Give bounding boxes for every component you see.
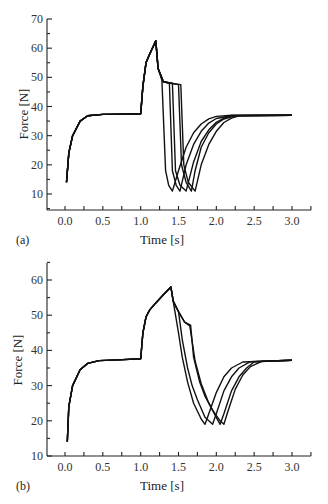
- x-ticks: 0.00.51.01.52.02.53.0: [58, 452, 311, 474]
- x-tick-label: 2.5: [247, 214, 262, 228]
- x-ticks: 0.00.51.01.52.02.53.0: [58, 206, 311, 228]
- y-ticks: 10203040506070: [31, 12, 52, 209]
- panel-label-b: (b): [16, 479, 30, 493]
- x-tick-label: 1.5: [171, 460, 186, 474]
- force-curve: [67, 287, 292, 442]
- y-tick-label: 20: [31, 158, 43, 172]
- x-tick-label: 3.0: [285, 460, 300, 474]
- x-tick-label: 0.0: [58, 214, 73, 228]
- y-tick-label: 50: [31, 70, 43, 84]
- panel-label-a: (a): [16, 233, 29, 247]
- y-tick-label: 20: [31, 414, 43, 428]
- chart-panel-b: 102030405060 0.00.51.01.52.02.53.0 Force…: [10, 262, 311, 493]
- x-tick-label: 0.5: [95, 214, 110, 228]
- y-ticks: 102030405060: [31, 262, 52, 463]
- x-tick-label: 2.5: [247, 460, 262, 474]
- x-tick-label: 1.5: [171, 214, 186, 228]
- x-tick-label: 1.0: [133, 460, 148, 474]
- y-tick-label: 70: [31, 12, 43, 26]
- y-tick-label: 10: [31, 449, 43, 463]
- y-tick-label: 60: [31, 273, 43, 287]
- force-curve: [67, 287, 292, 442]
- x-tick-label: 3.0: [285, 214, 300, 228]
- y-tick-label: 60: [31, 41, 43, 55]
- y-tick-label: 30: [31, 129, 43, 143]
- figure: 10203040506070 0.00.51.01.52.02.53.0 For…: [0, 0, 328, 504]
- y-tick-label: 40: [31, 100, 43, 114]
- data-curves: [67, 41, 293, 191]
- x-axis-title: Time [s]: [140, 232, 184, 247]
- x-axis-title: Time [s]: [140, 478, 184, 493]
- y-tick-label: 30: [31, 379, 43, 393]
- y-axis-title: Force [N]: [10, 335, 25, 386]
- x-tick-label: 2.0: [209, 460, 224, 474]
- chart-panel-a: 10203040506070 0.00.51.01.52.02.53.0 For…: [16, 12, 311, 247]
- force-curve: [67, 287, 292, 442]
- y-tick-label: 40: [31, 343, 43, 357]
- x-tick-label: 0.5: [95, 460, 110, 474]
- force-curve: [67, 287, 292, 442]
- x-tick-label: 0.0: [58, 460, 73, 474]
- x-tick-label: 1.0: [133, 214, 148, 228]
- x-tick-label: 2.0: [209, 214, 224, 228]
- y-tick-label: 50: [31, 308, 43, 322]
- data-curves: [67, 287, 292, 442]
- y-axis-title: Force [N]: [16, 89, 31, 140]
- y-tick-label: 10: [31, 187, 43, 201]
